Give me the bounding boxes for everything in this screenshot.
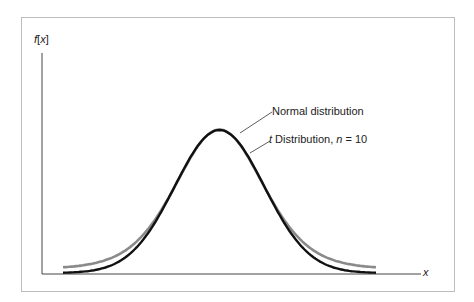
normal-distribution-curve [63, 130, 376, 273]
t-distribution-curve [63, 130, 376, 268]
t-leader-line [250, 141, 270, 153]
normal-leader-line [240, 112, 272, 133]
t-distribution-label: t Distribution, n = 10 [269, 133, 367, 145]
normal-distribution-label: Normal distribution [272, 105, 364, 117]
x-axis-label: x [423, 266, 429, 278]
y-axis-label: f[x] [34, 33, 49, 45]
plot-area [0, 0, 474, 302]
